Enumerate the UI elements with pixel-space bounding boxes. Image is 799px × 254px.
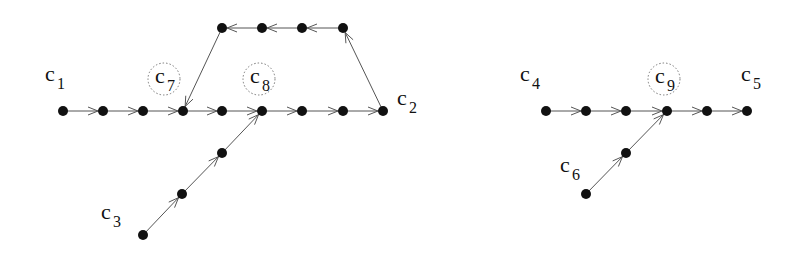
labels-layer: c1c7c8c2c3c4c9c5c6 (45, 61, 761, 230)
node-b1 (138, 230, 148, 240)
node-n6 (257, 106, 267, 116)
node-n7 (297, 106, 307, 116)
edges-layer (63, 24, 747, 235)
node-label-subscript: 7 (167, 77, 175, 94)
node-label: c (741, 61, 751, 86)
node-t2 (257, 23, 267, 33)
node-label: c (250, 63, 260, 88)
node-label: c (101, 199, 111, 224)
node-label-subscript: 1 (57, 75, 65, 92)
node-label: c (560, 152, 570, 177)
node-n1 (58, 106, 68, 116)
node-m6 (742, 106, 752, 116)
edge-n9-t4 (343, 28, 383, 111)
node-b2 (177, 189, 187, 199)
graph-diagram: c1c7c8c2c3c4c9c5c6 (0, 0, 799, 254)
node-m4 (662, 106, 672, 116)
node-n9 (378, 106, 388, 116)
node-label-subscript: 3 (113, 213, 121, 230)
node-label-subscript: 6 (572, 166, 580, 183)
node-label: c (520, 61, 530, 86)
node-k1 (581, 189, 591, 199)
edge-b3-n6 (222, 111, 262, 153)
node-n5 (217, 106, 227, 116)
node-n2 (98, 106, 108, 116)
node-m5 (702, 106, 712, 116)
node-label-subscript: 2 (409, 99, 417, 116)
node-label-subscript: 9 (667, 77, 675, 94)
edge-b1-b2 (143, 194, 182, 235)
node-n4 (178, 106, 188, 116)
edge-k2-m4 (626, 111, 667, 153)
node-n8 (338, 106, 348, 116)
node-label-subscript: 8 (262, 77, 270, 94)
node-k2 (621, 148, 631, 158)
edge-b2-b3 (182, 153, 222, 194)
node-b3 (217, 148, 227, 158)
node-m1 (541, 106, 551, 116)
node-label: c (155, 63, 165, 88)
node-label-subscript: 4 (532, 75, 540, 92)
node-label-subscript: 5 (753, 75, 761, 92)
node-label: c (397, 85, 407, 110)
node-t4 (338, 23, 348, 33)
node-label: c (655, 63, 665, 88)
edge-t1-n4 (183, 28, 222, 111)
node-label: c (45, 61, 55, 86)
node-n3 (138, 106, 148, 116)
nodes-layer (58, 23, 752, 240)
node-t1 (217, 23, 227, 33)
edge-k1-k2 (586, 153, 626, 194)
node-m3 (621, 106, 631, 116)
node-m2 (581, 106, 591, 116)
node-t3 (297, 23, 307, 33)
